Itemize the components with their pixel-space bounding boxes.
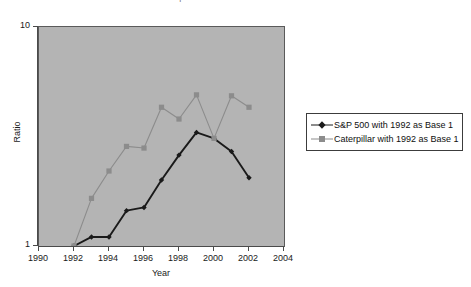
y-axis-line [37, 26, 38, 246]
x-tick-mark [248, 247, 249, 251]
y-axis-title: Ratio [12, 102, 22, 162]
data-point-marker [106, 168, 111, 173]
x-tick-mark [108, 247, 109, 251]
x-tick-label: 1996 [123, 253, 163, 263]
data-point-marker [246, 105, 251, 110]
data-point-marker [229, 93, 234, 98]
y-tick-mark-bottom [33, 245, 37, 246]
legend: S&P 500 with 1992 as Base 1 Caterpillar … [306, 113, 463, 151]
y-tick-label-10: 10 [4, 21, 30, 30]
x-tick-mark [38, 247, 39, 251]
series-line [74, 95, 249, 246]
data-point-marker [89, 196, 94, 201]
x-axis-title: Year [38, 268, 284, 278]
y-tick-label-1: 1 [4, 240, 30, 249]
x-tick-mark [73, 247, 74, 251]
data-point-marker [176, 116, 181, 121]
data-point-marker [141, 145, 146, 150]
data-point-marker [194, 92, 199, 97]
legend-item-sp500[interactable]: S&P 500 with 1992 as Base 1 [310, 118, 459, 132]
data-point-marker [159, 105, 164, 110]
legend-label-sp500: S&P 500 with 1992 as Base 1 [334, 119, 453, 131]
x-tick-label: 2002 [228, 253, 268, 263]
square-marker-icon [310, 133, 334, 145]
y-tick-mark-top [33, 26, 37, 27]
legend-item-caterpillar[interactable]: Caterpillar with 1992 as Base 1 [310, 132, 459, 146]
x-tick-label: 2004 [263, 253, 303, 263]
diamond-marker-icon [310, 119, 334, 131]
data-point-marker [124, 144, 129, 149]
x-tick-label: 1992 [53, 253, 93, 263]
plot-area [38, 26, 285, 247]
x-tick-label: 1998 [158, 253, 198, 263]
x-tick-label: 2000 [193, 253, 233, 263]
x-tick-label: 1990 [18, 253, 58, 263]
chart-title: S&P 500 Real Return vs. Caterpillar Real… [52, 0, 352, 2]
x-tick-label: 1994 [88, 253, 128, 263]
series-layer [39, 27, 284, 246]
data-point-marker [211, 136, 216, 141]
x-tick-mark [178, 247, 179, 251]
x-tick-mark [283, 247, 284, 251]
legend-label-caterpillar: Caterpillar with 1992 as Base 1 [334, 133, 459, 145]
series-line [74, 132, 249, 246]
x-tick-mark [213, 247, 214, 251]
chart-figure: S&P 500 Real Return vs. Caterpillar Real… [0, 0, 471, 287]
x-tick-mark [143, 247, 144, 251]
